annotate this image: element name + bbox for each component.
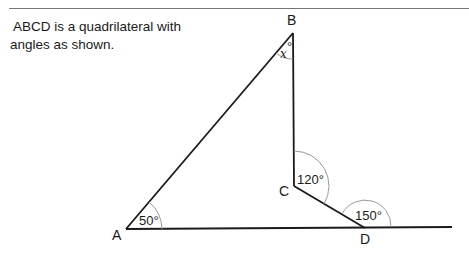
side-bc	[293, 33, 294, 186]
side-ab	[126, 33, 293, 229]
quadrilateral-diagram: A B C D 50° x ° 120° 150°	[0, 0, 469, 253]
vertex-label-b: B	[287, 12, 296, 28]
side-ad-extended	[126, 227, 452, 229]
angle-label-a: 50°	[139, 213, 159, 228]
angle-label-d-exterior: 150°	[355, 208, 382, 223]
angle-label-c: 120°	[297, 172, 324, 187]
angle-label-b-degree: °	[287, 39, 292, 54]
vertex-label-c: C	[279, 183, 289, 199]
angle-label-b-variable: x	[280, 47, 287, 61]
vertex-label-d: D	[360, 231, 370, 247]
vertex-label-a: A	[112, 227, 122, 243]
